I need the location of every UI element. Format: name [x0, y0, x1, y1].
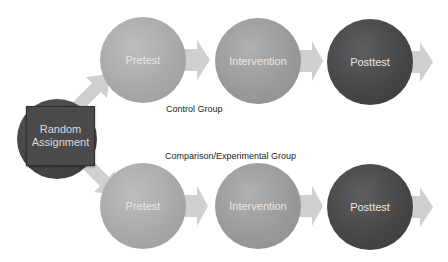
random-assignment-label-line2: Assignment [32, 136, 89, 149]
control-pretest-node: Pretest [100, 17, 186, 103]
experimental-pretest-node: Pretest [100, 163, 186, 249]
node-label: Intervention [229, 200, 286, 212]
control-posttest-node: Posttest [327, 19, 413, 105]
arrow-right-icon [183, 186, 208, 226]
control-intervention-node: Intervention [215, 18, 301, 104]
arrow-right-icon [410, 42, 433, 82]
random-assignment-label-line1: Random [40, 123, 82, 136]
node-label: Posttest [350, 201, 390, 213]
arrow-right-icon [298, 186, 323, 226]
arrow-right-icon [298, 41, 323, 81]
experimental-intervention-node: Intervention [215, 163, 301, 249]
experimental-group-label: Comparison/Experimental Group [165, 151, 296, 161]
node-label: Pretest [126, 54, 161, 66]
node-label: Intervention [229, 55, 286, 67]
arrow-right-icon [410, 187, 433, 227]
arrow-right-icon [183, 40, 210, 80]
experimental-posttest-node: Posttest [327, 164, 413, 250]
node-label: Pretest [126, 200, 161, 212]
node-label: Posttest [350, 56, 390, 68]
random-assignment-box: Random Assignment [26, 106, 95, 166]
control-group-label: Control Group [166, 104, 223, 114]
